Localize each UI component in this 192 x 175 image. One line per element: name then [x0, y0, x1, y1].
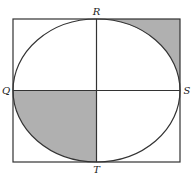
shaded-region-bottom-left-quarter — [13, 91, 97, 163]
point-label-S: S — [184, 85, 191, 96]
point-label-R: R — [92, 6, 101, 17]
diagram-svg: R Q S T — [0, 0, 192, 175]
shaded-region-top-right-corner — [97, 19, 181, 91]
point-label-T: T — [93, 164, 101, 175]
ellipse-in-rectangle-diagram: R Q S T — [0, 0, 192, 175]
point-label-Q: Q — [2, 85, 10, 96]
